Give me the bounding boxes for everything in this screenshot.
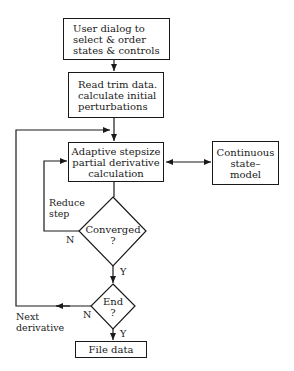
end-decision-label: End ? [103, 296, 123, 318]
continuous-model-box: Continuous state– model [212, 141, 279, 185]
read-trim-box: Read trim data. calculate initial pertur… [68, 72, 164, 118]
end-yes-label: Y [120, 328, 126, 339]
adaptive-stepsize-box: Adaptive stepsize partial derivative cal… [68, 142, 164, 182]
continuous-model-label: Continuous state– model [217, 147, 275, 180]
user-dialog-label: User dialog to select & order states & c… [73, 23, 160, 56]
converged-no-label: N [66, 234, 74, 245]
converged-yes-label: Y [120, 266, 126, 277]
adaptive-stepsize-label: Adaptive stepsize partial derivative cal… [72, 146, 161, 179]
file-data-box: File data [75, 341, 147, 358]
read-trim-label: Read trim data. calculate initial pertur… [78, 79, 157, 112]
end-no-label: N [83, 309, 91, 320]
next-derivative-label: Next derivative [16, 311, 64, 333]
reduce-step-label: Reduce step [49, 197, 85, 219]
converged-decision-label: Converged ? [85, 224, 140, 246]
file-data-label: File data [89, 344, 134, 355]
user-dialog-box: User dialog to select & order states & c… [63, 18, 170, 60]
